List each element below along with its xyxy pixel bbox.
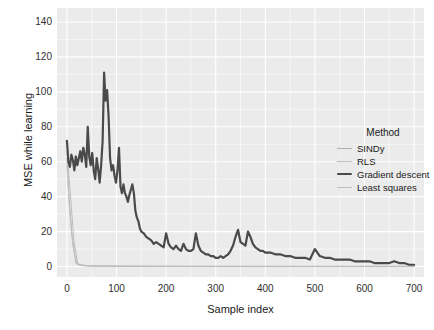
- y-axis-tick-label: 0: [24, 262, 52, 272]
- legend-item-label: Gradient descent: [357, 169, 429, 180]
- y-axis-tick-labels: 020406080100120140: [22, 0, 52, 330]
- legend-item-label: RLS: [357, 156, 375, 167]
- x-axis-tick-label: 200: [146, 284, 186, 294]
- legend-item-sindy[interactable]: SINDy: [336, 142, 428, 154]
- y-axis-tick-label: 60: [24, 157, 52, 167]
- legend-item-rls[interactable]: RLS: [336, 155, 428, 167]
- legend-item-least-squares[interactable]: Least squares: [336, 181, 428, 193]
- x-axis-tick-label: 0: [47, 284, 87, 294]
- x-axis-tick-label: 500: [295, 284, 335, 294]
- x-axis-tick-label: 400: [245, 284, 285, 294]
- legend-swatch-icon: [336, 169, 353, 180]
- y-axis-tick-label: 120: [24, 52, 52, 62]
- legend-item-label: Least squares: [357, 182, 417, 193]
- legend-item-label: SINDy: [357, 143, 384, 154]
- legend-title: Method: [344, 127, 422, 138]
- legend-item-gradient-descent[interactable]: Gradient descent: [336, 168, 428, 180]
- legend-entries: SINDyRLSGradient descentLeast squares: [336, 142, 428, 193]
- x-axis-tick-label: 600: [344, 284, 384, 294]
- x-axis-tick-labels: 0100200300400500600700: [0, 284, 429, 298]
- x-axis-tick-label: 700: [394, 284, 434, 294]
- y-axis-tick-label: 100: [24, 87, 52, 97]
- y-axis-tick-label: 80: [24, 122, 52, 132]
- legend-swatch-icon: [336, 156, 353, 167]
- y-axis-tick-label: 20: [24, 227, 52, 237]
- legend-swatch-icon: [336, 143, 353, 154]
- x-axis-title: Sample index: [57, 303, 424, 315]
- y-axis-tick-label: 40: [24, 192, 52, 202]
- x-axis-tick-label: 100: [97, 284, 137, 294]
- x-axis-tick-label: 300: [196, 284, 236, 294]
- legend-swatch-icon: [336, 182, 353, 193]
- y-axis-tick-label: 140: [24, 17, 52, 27]
- legend: Method SINDyRLSGradient descentLeast squ…: [336, 127, 428, 194]
